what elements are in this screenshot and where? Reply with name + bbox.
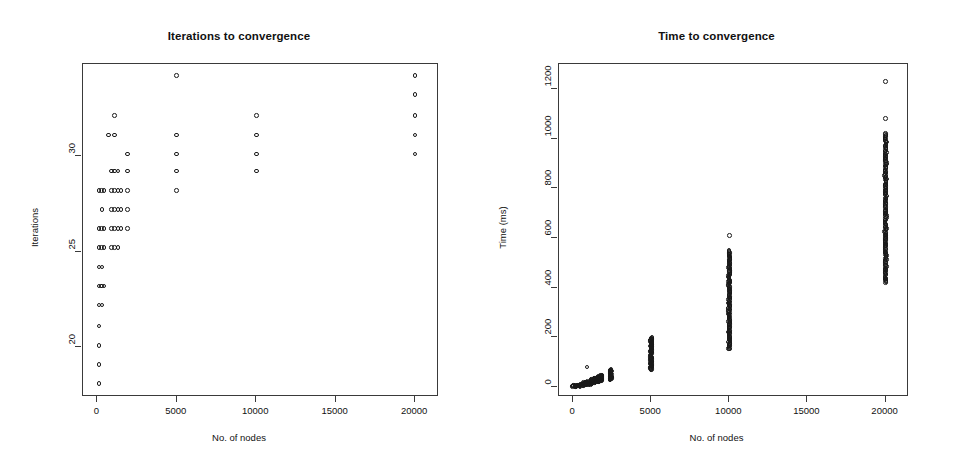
scatter-points-left — [83, 64, 437, 395]
data-point — [125, 152, 130, 157]
data-point — [174, 152, 179, 157]
data-point — [116, 245, 121, 250]
data-point — [883, 79, 888, 84]
y-axis-tick — [551, 336, 557, 337]
data-point — [112, 113, 117, 118]
data-point — [102, 226, 107, 231]
data-point — [97, 381, 102, 386]
data-point — [883, 131, 888, 136]
panel-title-left: Iterations to convergence — [0, 30, 478, 42]
data-point — [413, 133, 418, 138]
x-axis-tick — [176, 396, 177, 402]
y-axis-tick — [551, 187, 557, 188]
x-axis-tick — [96, 396, 97, 402]
data-point — [174, 73, 179, 78]
data-point — [125, 207, 130, 212]
x-axis-tick-label: 15000 — [321, 405, 347, 416]
x-axis-tick — [728, 396, 729, 402]
x-axis-tick-label: 15000 — [793, 405, 819, 416]
x-axis-tick — [885, 396, 886, 402]
x-axis-tick — [806, 396, 807, 402]
data-point — [413, 73, 418, 78]
x-axis-tick — [650, 396, 651, 402]
x-axis-tick — [255, 396, 256, 402]
x-axis-tick — [335, 396, 336, 402]
plot-area-right — [558, 63, 908, 396]
data-point — [254, 169, 259, 174]
y-axis-tick — [551, 237, 557, 238]
data-point — [116, 169, 121, 174]
y-axis-tick — [75, 155, 81, 156]
data-point — [174, 169, 179, 174]
y-axis-tick — [75, 346, 81, 347]
x-axis-title-left: No. of nodes — [0, 432, 478, 443]
x-axis-tick-label: 10000 — [715, 405, 741, 416]
data-point — [413, 92, 418, 97]
y-axis-title-right: Time (ms) — [497, 188, 508, 268]
data-point — [727, 233, 732, 238]
data-point — [883, 116, 888, 121]
y-axis-tick — [551, 386, 557, 387]
data-point — [119, 188, 124, 193]
y-axis-tick — [551, 287, 557, 288]
data-point — [100, 207, 105, 212]
data-point — [119, 226, 124, 231]
panel-time: Time to convergence 05000100001500020000… — [478, 0, 955, 468]
data-point — [174, 188, 179, 193]
data-point — [585, 365, 590, 370]
x-axis-tick-label: 0 — [94, 405, 99, 416]
data-point — [97, 343, 102, 348]
data-point — [97, 362, 102, 367]
data-point — [174, 133, 179, 138]
data-point — [119, 207, 124, 212]
data-point — [112, 133, 117, 138]
data-point — [254, 152, 259, 157]
data-point — [102, 245, 107, 250]
panel-iterations: Iterations to convergence 05000100001500… — [0, 0, 478, 468]
x-axis-tick-label: 10000 — [242, 405, 268, 416]
data-point — [100, 265, 105, 270]
scatter-points-right — [559, 64, 907, 395]
x-axis-tick-label: 20000 — [401, 405, 427, 416]
data-point — [413, 152, 418, 157]
data-point — [125, 169, 130, 174]
figure-two-scatter-panels: Iterations to convergence 05000100001500… — [0, 0, 955, 468]
data-point — [102, 188, 107, 193]
x-axis-tick-label: 5000 — [640, 405, 661, 416]
x-axis-tick-label: 5000 — [165, 405, 186, 416]
x-axis-tick-label: 20000 — [871, 405, 897, 416]
y-axis-tick — [551, 138, 557, 139]
x-axis-title-right: No. of nodes — [478, 432, 955, 443]
x-axis-tick — [414, 396, 415, 402]
y-axis-title-left: Iterations — [29, 188, 40, 268]
x-axis-tick — [572, 396, 573, 402]
y-axis-tick — [75, 251, 81, 252]
panel-title-right: Time to convergence — [478, 30, 955, 42]
data-point — [106, 133, 111, 138]
data-point — [254, 133, 259, 138]
data-point — [125, 226, 130, 231]
data-point — [413, 113, 418, 118]
data-point — [650, 335, 655, 340]
data-point — [125, 188, 130, 193]
y-axis-tick — [551, 88, 557, 89]
data-point — [100, 303, 105, 308]
x-axis-tick-label: 0 — [569, 405, 574, 416]
data-point — [254, 113, 259, 118]
data-point — [102, 284, 107, 289]
data-point — [97, 324, 102, 329]
plot-area-left — [82, 63, 438, 396]
